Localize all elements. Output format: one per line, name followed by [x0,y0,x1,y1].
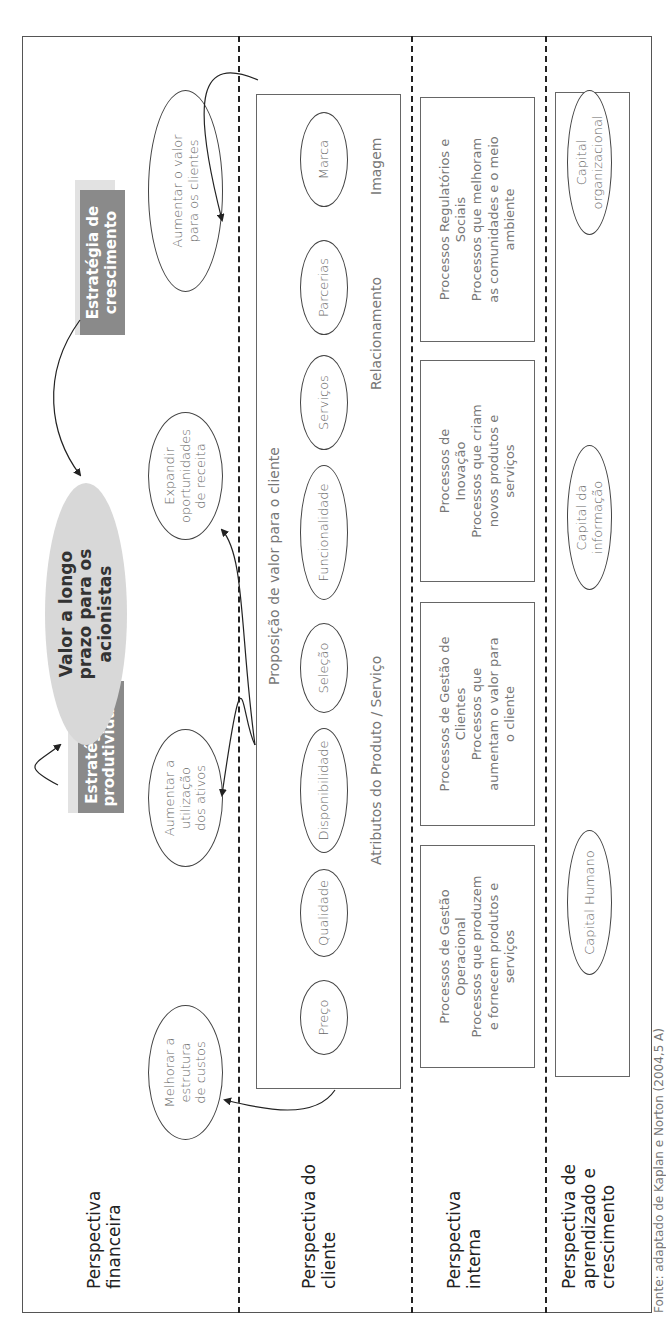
capital-human: Capital Humano [567,830,612,975]
objective-line: para os clientes [186,134,202,247]
process-regulatory-social: Processos Regulatórios e Sociais Process… [420,97,535,342]
objective-line: oportunidades [178,429,194,523]
goal-line: Valor a longo [57,549,77,680]
ellipse-label: Disponibilidade [316,741,332,841]
perspective-customer-label: Perspectiva do cliente [300,1164,339,1289]
ellipse-label: Parcerias [316,258,332,317]
perspective-internal-label: Perspectiva interna [445,1191,484,1289]
ellipse-label: Seleção [316,643,332,694]
process-desc: as comunidades e o meio [486,136,502,303]
strategy-line: Estratégia de [85,206,102,319]
process-desc: Processos que produzem [469,875,485,1037]
process-desc: e fornecem produtos e [486,875,502,1037]
goal-line: acionistas [96,549,116,680]
objective-line: Aumentar o valor [170,134,186,247]
ellipse-label: Marca [316,140,332,179]
relationship-services: Serviços [300,355,348,450]
process-title: Operacional [453,875,469,1037]
perspective-learning-label: Perspectiva de aprendizado e crescimento [560,1164,619,1289]
process-desc: serviços [502,875,518,1037]
capital-line: informação [590,481,606,554]
process-title: Processos Regulatórios e [437,136,453,303]
process-operational-management: Processos de Gestão Operacional Processo… [420,845,535,1068]
relationship-partnerships: Parcerias [300,240,348,335]
capital-line: Capital da [574,481,590,554]
objective-line: Expandir [162,429,178,523]
objective-line: Aumentar a utilização [162,730,193,866]
long-term-shareholder-value: Valor a longo prazo para os acionistas [45,483,127,745]
process-desc: serviços [502,404,518,538]
attribute-availability: Disponibilidade [300,728,348,853]
growth-strategy-box: Estratégia de crescimento [80,190,125,335]
attribute-quality: Qualidade [300,869,348,957]
process-customer-management: Processos de Gestão de Clientes Processo… [420,602,535,826]
objective-expand-revenue-opportunities: Expandiroportunidadesde receita [148,412,223,540]
objective-improve-cost-structure: Melhorar a estruturade custos [148,1005,223,1140]
label-line: interna [465,1191,485,1289]
process-desc: Processos que [469,637,485,792]
strategy-line: crescimento [103,206,120,319]
attribute-price: Preço [300,980,348,1055]
process-title: Processos de [437,404,453,538]
capital-line: Capital Humano [582,850,598,955]
label-line: Perspectiva [85,1191,105,1289]
process-desc: Processos que melhoram [469,136,485,303]
goal-line: prazo para os [76,549,96,680]
image-brand: Marca [300,112,348,207]
image-group-label: Imagem [368,138,384,195]
separator-financial-customer [238,36,240,1313]
process-desc: novos produtos e [486,404,502,538]
attributes-group-label: Atributos do Produto / Serviço [368,656,384,865]
process-innovation: Processos de Inovação Processos que cria… [420,360,535,582]
process-title: Processos de Gestão de [437,637,453,792]
label-line: cliente [320,1164,340,1289]
process-desc: aumentam o valor para [486,637,502,792]
ellipse-label: Preço [316,1000,332,1036]
capital-line: Capital [574,116,590,210]
process-title: Clientes [453,637,469,792]
attribute-selection: Seleção [300,623,348,713]
label-line: aprendizado e [580,1164,600,1289]
process-desc: o cliente [502,637,518,792]
label-line: Perspectiva [445,1191,465,1289]
label-line: Perspectiva de [560,1164,580,1289]
process-title: Sociais [453,136,469,303]
process-desc: Processos que criam [469,404,485,538]
attribute-functionality: Funcionalidade [300,465,348,600]
label-line: Perspectiva do [300,1164,320,1289]
source-caption: Fonte: adaptado de Kaplan e Norton (2004… [652,1028,666,1313]
objective-increase-customer-value: Aumentar o valorpara os clientes [148,90,223,292]
strategy-map-diagram: Perspectiva financeira Perspectiva do cl… [0,0,666,1335]
label-line: crescimento [599,1164,619,1289]
capital-line: organizacional [590,116,606,210]
ellipse-label: Funcionalidade [316,484,332,582]
ellipse-label: Serviços [316,375,332,430]
label-line: financeira [105,1191,125,1289]
perspective-financial-label: Perspectiva financeira [85,1191,124,1289]
objective-line: de custos [193,1006,209,1139]
capital-information: Capital dainformação [567,445,612,590]
separator-customer-internal [411,36,413,1313]
objective-line: de receita [193,429,209,523]
separator-internal-learning [545,36,547,1313]
capital-organizational: Capitalorganizacional [567,90,612,235]
objective-line: dos ativos [193,730,209,866]
objective-increase-asset-utilization: Aumentar a utilizaçãodos ativos [148,729,223,867]
relationship-group-label: Relacionamento [368,277,384,390]
process-desc: ambiente [502,136,518,303]
objective-line: Melhorar a estrutura [162,1006,193,1139]
process-title: Inovação [453,404,469,538]
ellipse-label: Qualidade [316,880,332,946]
process-title: Processos de Gestão [437,875,453,1037]
value-proposition-label: Proposição de valor para o cliente [266,447,282,685]
